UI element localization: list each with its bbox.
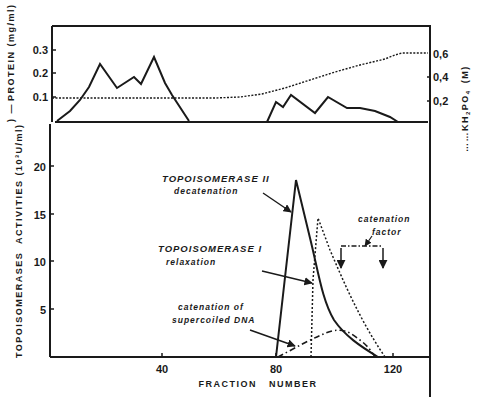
tick-kh2po4-0.4: 0,4 xyxy=(433,71,449,83)
tick-kh2po4-0.2: 0,2 xyxy=(433,95,448,107)
tick-activity-15: 15 xyxy=(34,209,46,221)
annotation-factor: catenation xyxy=(358,214,411,224)
annotation-topo1-sub: relaxation xyxy=(166,257,216,267)
tick-activity-5: 5 xyxy=(40,304,46,316)
svg-text:……KH2PO4(M): ……KH2PO4(M) xyxy=(460,65,471,152)
tick-fraction-120: 120 xyxy=(384,363,402,375)
protein-line-peak2 xyxy=(267,95,398,122)
tick-kh2po4-0.6: 0,6 xyxy=(433,48,448,60)
tick-activity-20: 20 xyxy=(34,161,46,173)
x-axis-label: FRACTION NUMBER xyxy=(199,379,318,389)
kh2po4-axis-label: ……KH2PO4(M) xyxy=(460,65,471,152)
bottom-panel: 20 15 10 5 40 80 120 FRACTION NUMBER TOP… xyxy=(14,123,431,389)
top-panel: 0.3 0.2 0.1 0,6 0,4 0,2 ) —PROTEIN (mg/m… xyxy=(6,3,471,397)
annotation-catenation-sub: supercoiled DNA xyxy=(172,315,256,325)
topo2-decatenation-curve xyxy=(276,180,378,357)
activity-axis-label: TOPOISOMERASES ACTIVITIES (10³U/ml) xyxy=(14,123,24,358)
tick-fraction-80: 80 xyxy=(270,363,282,375)
tick-activity-10: 10 xyxy=(34,256,46,268)
protein-line-peak1 xyxy=(57,57,189,121)
arrow-topo1 xyxy=(262,271,312,283)
tick-protein-0.2: 0.2 xyxy=(33,67,48,79)
catenation-supercoiled-curve xyxy=(278,330,375,357)
tick-protein-0.1: 0.1 xyxy=(33,91,48,103)
arrow-topo2 xyxy=(263,193,291,212)
annotation-topo2-sub: decatenation xyxy=(174,186,238,196)
chromatography-figure: 0.3 0.2 0.1 0,6 0,4 0,2 ) —PROTEIN (mg/m… xyxy=(0,0,477,398)
annotation-catenation: catenation of xyxy=(178,302,244,312)
annotation-factor-sub: factor xyxy=(372,227,402,237)
annotation-topo1: TOPOISOMERASE I xyxy=(158,243,262,254)
tick-fraction-40: 40 xyxy=(156,363,168,375)
tick-protein-0.3: 0.3 xyxy=(33,44,48,56)
protein-axis-label: ) —PROTEIN (mg/ml) xyxy=(6,3,16,122)
arrow-factor xyxy=(365,236,372,246)
arrow-catenation xyxy=(250,330,295,346)
annotation-topo2: TOPOISOMERASE II xyxy=(162,173,270,184)
